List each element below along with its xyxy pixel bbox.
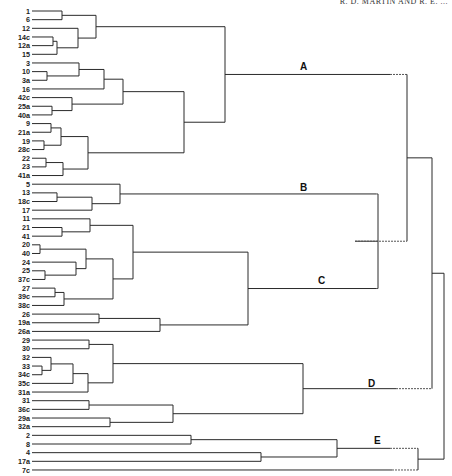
leaf-label: 5 xyxy=(26,180,30,189)
leaf-label: 29a xyxy=(18,414,31,423)
leaf-label: 25 xyxy=(22,266,30,275)
leaf-label: 22 xyxy=(22,154,30,163)
leaf-label: 42c xyxy=(18,93,30,102)
leaf-label: 31 xyxy=(22,396,30,405)
leaf-label: 26 xyxy=(22,310,30,319)
leaf-label: 33 xyxy=(22,362,30,371)
leaf-label: 17 xyxy=(22,206,30,215)
leaf-label: 32a xyxy=(18,422,31,431)
leaf-label: 41a xyxy=(18,171,31,180)
leaf-label: 11 xyxy=(22,214,30,223)
leaf-label: 21a xyxy=(18,128,31,137)
leaf-label: 6 xyxy=(26,15,30,24)
leaf-label: 1 xyxy=(26,7,30,16)
leaf-label: 25a xyxy=(18,102,31,111)
leaf-label: 18c xyxy=(18,197,30,206)
leaf-label: 37c xyxy=(18,275,30,284)
leaf-label: 35c xyxy=(18,379,30,388)
leaf-label: 31a xyxy=(18,388,31,397)
leaf-label: 36c xyxy=(18,405,30,414)
leaf-label: 38c xyxy=(18,301,30,310)
leaf-label: 34c xyxy=(18,370,30,379)
leaf-label: 41 xyxy=(22,232,30,241)
dendrogram: 161214c12a153103a1642c25a40a921a1928c222… xyxy=(0,0,452,476)
leaf-label: 28c xyxy=(18,145,30,154)
leaf-label: 19 xyxy=(22,137,30,146)
cluster-label-a: A xyxy=(300,61,307,72)
leaf-label: 9 xyxy=(26,119,30,128)
leaf-label: 17a xyxy=(18,457,31,466)
leaf-label: 40a xyxy=(18,111,31,120)
leaf-label: 12 xyxy=(22,24,30,33)
leaf-label: 2 xyxy=(26,431,30,440)
leaf-label: 32 xyxy=(22,353,30,362)
leaf-label: 39c xyxy=(18,292,30,301)
cluster-label-e: E xyxy=(374,435,381,446)
leaf-label: 21 xyxy=(22,223,30,232)
dendrogram-branches xyxy=(32,11,444,470)
leaf-label: 30 xyxy=(22,344,30,353)
leaf-label: 4 xyxy=(26,448,30,457)
leaf-label: 13 xyxy=(22,188,30,197)
leaf-label: 26a xyxy=(18,327,31,336)
cluster-label-b: B xyxy=(300,182,307,193)
leaf-label: 7c xyxy=(22,466,30,475)
leaf-label: 24 xyxy=(22,258,30,267)
leaf-label: 12a xyxy=(18,41,31,50)
leaf-label: 23 xyxy=(22,162,30,171)
leaf-label: 19a xyxy=(18,318,31,327)
leaf-label: 3a xyxy=(22,76,31,85)
leaf-label: 40 xyxy=(22,249,30,258)
cluster-label-d: D xyxy=(368,378,375,389)
leaf-label: 27 xyxy=(22,284,30,293)
leaf-label: 3 xyxy=(26,59,30,68)
leaf-label: 29 xyxy=(22,336,30,345)
cluster-label-c: C xyxy=(318,275,325,286)
leaf-label: 15 xyxy=(22,50,30,59)
leaf-labels: 161214c12a153103a1642c25a40a921a1928c222… xyxy=(18,7,31,475)
leaf-label: 14c xyxy=(18,33,30,42)
leaf-label: 16 xyxy=(22,85,30,94)
leaf-label: 20 xyxy=(22,240,30,249)
leaf-label: 8 xyxy=(26,440,30,449)
leaf-label: 10 xyxy=(22,67,30,76)
